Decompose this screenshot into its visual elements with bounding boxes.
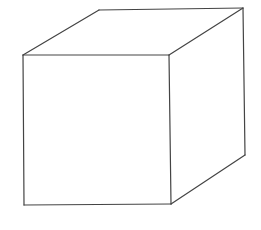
cube-front-face <box>23 55 171 205</box>
diagram-canvas <box>0 0 261 230</box>
cube-diagram <box>0 0 261 230</box>
